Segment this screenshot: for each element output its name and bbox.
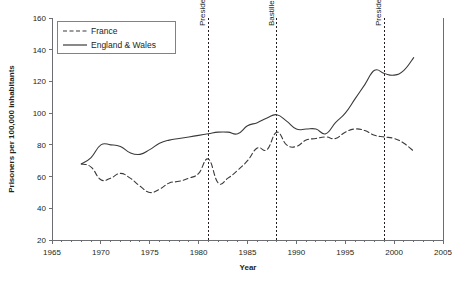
y-tick-label: 60 bbox=[37, 173, 46, 182]
line-chart: 20406080100120140160 1965197019751980198… bbox=[0, 0, 471, 286]
x-tick-label: 1975 bbox=[141, 248, 159, 257]
y-tick-label: 160 bbox=[33, 14, 47, 23]
series-france bbox=[81, 129, 413, 193]
y-tick-label: 40 bbox=[37, 204, 46, 213]
y-axis: 20406080100120140160 bbox=[33, 14, 52, 245]
y-tick-label: 100 bbox=[33, 109, 47, 118]
y-axis-title: Prisoners per 100,000 inhabitants bbox=[7, 65, 16, 193]
x-tick-label: 1995 bbox=[336, 248, 354, 257]
x-tick-label: 2000 bbox=[385, 248, 403, 257]
x-tick-label: 1990 bbox=[287, 248, 305, 257]
x-axis-title: Year bbox=[240, 263, 257, 272]
legend-label-2: England & Wales bbox=[91, 40, 156, 50]
x-tick-label: 1970 bbox=[92, 248, 110, 257]
x-tick-label: 1980 bbox=[190, 248, 208, 257]
legend-label-1: France bbox=[91, 26, 118, 36]
y-tick-label: 140 bbox=[33, 46, 47, 55]
y-tick-label: 120 bbox=[33, 77, 47, 86]
data-series bbox=[81, 58, 413, 193]
annotation-lines: Presidential PardonBastille Fall PardonP… bbox=[198, 0, 384, 240]
series-england-wales bbox=[81, 58, 413, 164]
chart-figure: 20406080100120140160 1965197019751980198… bbox=[0, 0, 471, 286]
chart-legend: FranceEngland & Wales bbox=[57, 21, 175, 53]
x-tick-label: 2005 bbox=[434, 248, 452, 257]
annotation-label: Presidential Pardon bbox=[198, 0, 207, 26]
annotation-label: Bastille Fall Pardon bbox=[267, 0, 276, 26]
x-tick-label: 1985 bbox=[239, 248, 257, 257]
y-tick-label: 80 bbox=[37, 141, 46, 150]
y-tick-label: 20 bbox=[37, 236, 46, 245]
x-tick-label: 1965 bbox=[43, 248, 61, 257]
annotation-label: Presidential Pardon bbox=[374, 0, 383, 26]
